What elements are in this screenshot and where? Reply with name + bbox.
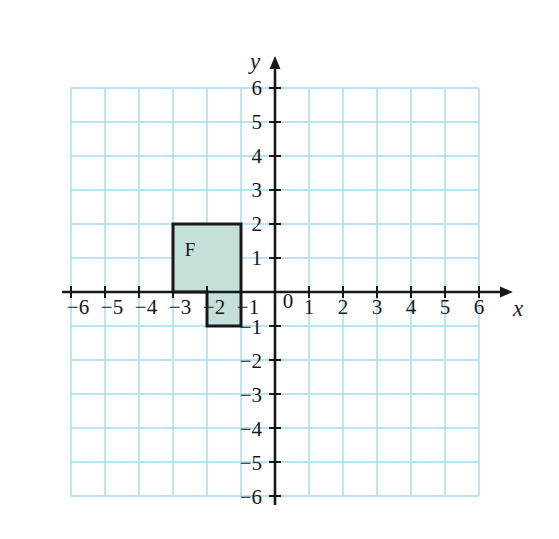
- x-axis-arrowhead: [500, 287, 513, 298]
- y-tick-label: −1: [240, 315, 262, 339]
- y-axis-arrowhead: [270, 56, 281, 69]
- y-tick-label: −2: [240, 349, 262, 373]
- x-tick-label: 2: [338, 295, 349, 319]
- x-tick-label: 1: [304, 295, 315, 319]
- origin-label: 0: [283, 289, 294, 313]
- y-tick-label: 5: [252, 110, 263, 134]
- x-tick-label: −2: [203, 295, 225, 319]
- x-tick-label: −6: [67, 295, 89, 319]
- y-tick-label: −4: [240, 417, 263, 441]
- x-tick-label: −4: [135, 295, 158, 319]
- y-tick-label: 4: [252, 144, 263, 168]
- shape-label-f: F: [185, 239, 196, 260]
- x-tick-label: 4: [406, 295, 417, 319]
- shape-labels: F: [185, 239, 196, 260]
- y-tick-label: 6: [252, 76, 263, 100]
- y-tick-label: −6: [240, 485, 262, 509]
- x-tick-label: −3: [169, 295, 191, 319]
- y-tick-label: 3: [252, 178, 263, 202]
- y-axis-name: y: [248, 49, 261, 74]
- y-tick-label: −5: [240, 451, 262, 475]
- x-tick-label: 3: [372, 295, 383, 319]
- y-tick-label: 2: [252, 212, 263, 236]
- x-tick-label: −5: [101, 295, 123, 319]
- y-tick-label: 1: [252, 246, 263, 270]
- x-axis-name: x: [512, 296, 524, 321]
- x-tick-label: 6: [474, 295, 485, 319]
- axis-names: xy: [248, 49, 524, 321]
- x-tick-label: 5: [440, 295, 451, 319]
- y-tick-label: −3: [240, 383, 262, 407]
- coordinate-plane-figure: −6−5−4−3−2−10123456−6−5−4−3−2−1123456 xy…: [0, 0, 559, 539]
- coordinate-plane-svg: −6−5−4−3−2−10123456−6−5−4−3−2−1123456 xy…: [0, 0, 559, 539]
